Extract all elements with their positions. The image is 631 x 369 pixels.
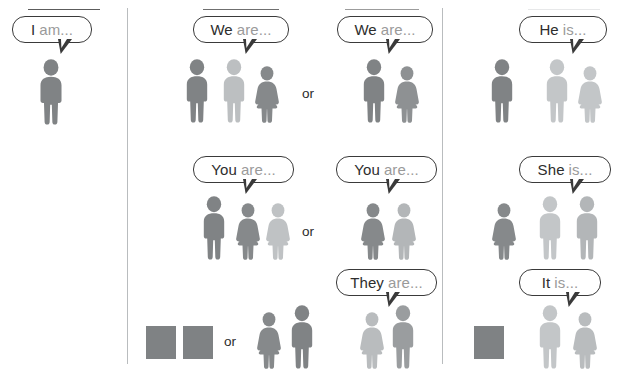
figure-woman bbox=[489, 203, 519, 260]
bubble-pronoun: You bbox=[211, 161, 237, 178]
bubble-pronoun: We bbox=[210, 21, 232, 38]
scan-artifact bbox=[528, 9, 600, 10]
figure-man bbox=[357, 59, 391, 123]
object-square bbox=[474, 326, 504, 359]
or-label-you: or bbox=[302, 224, 314, 239]
pronoun-chart: Iam...Weare...Weare...Heis...Youare...Yo… bbox=[0, 0, 631, 369]
figure-woman bbox=[575, 66, 605, 123]
figure-man bbox=[540, 59, 574, 123]
bubble-verb: are... bbox=[381, 21, 416, 38]
bubble-pronoun: We bbox=[354, 21, 376, 38]
speech-bubble-i-am: Iam... bbox=[12, 16, 92, 43]
figure-woman bbox=[358, 203, 388, 260]
figure-woman bbox=[254, 312, 284, 369]
figure-woman bbox=[252, 66, 282, 123]
figure-woman bbox=[357, 312, 387, 369]
figure-man bbox=[386, 305, 420, 369]
figure-man bbox=[217, 59, 251, 123]
column-divider-right bbox=[442, 8, 443, 364]
speech-bubble-he-is: Heis... bbox=[519, 16, 607, 43]
or-label-we: or bbox=[302, 86, 314, 101]
bubble-pronoun: You bbox=[354, 161, 380, 178]
figure-woman bbox=[263, 203, 293, 260]
scan-artifact bbox=[345, 9, 419, 10]
bubble-verb: are... bbox=[237, 21, 272, 38]
figure-woman bbox=[570, 312, 600, 369]
speech-bubble-she-is: Sheis... bbox=[519, 156, 611, 183]
figure-man bbox=[33, 59, 69, 125]
bubble-pronoun: He bbox=[539, 21, 558, 38]
scan-artifact bbox=[203, 9, 279, 10]
bubble-pronoun: It bbox=[542, 274, 551, 291]
speech-bubble-it-is: Itis... bbox=[519, 269, 601, 296]
figure-man bbox=[533, 305, 567, 369]
object-square bbox=[146, 326, 176, 359]
bubble-pronoun: I bbox=[31, 21, 35, 38]
figure-man bbox=[570, 196, 604, 260]
figure-man bbox=[485, 59, 519, 123]
figure-man bbox=[285, 305, 319, 369]
figure-woman bbox=[233, 203, 263, 260]
column-divider-left bbox=[127, 8, 128, 364]
figure-man bbox=[197, 196, 231, 260]
figure-man bbox=[180, 59, 214, 123]
speech-bubble-we-are-a: Weare... bbox=[193, 16, 289, 43]
figure-man bbox=[533, 196, 567, 260]
object-square bbox=[183, 326, 213, 359]
scan-artifact bbox=[28, 9, 100, 10]
or-label-they: or bbox=[224, 334, 236, 349]
bubble-pronoun: She bbox=[538, 161, 565, 178]
figure-woman bbox=[389, 203, 419, 260]
bubble-pronoun: They bbox=[350, 274, 384, 291]
figure-woman bbox=[392, 66, 422, 123]
